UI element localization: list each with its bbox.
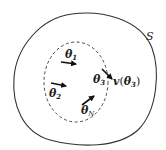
svg-text:θN: θN	[81, 104, 95, 118]
velocity-arrow-theta1	[61, 62, 76, 64]
velocity-arrow-theta2	[51, 83, 66, 86]
svg-text:θ2: θ2	[49, 87, 61, 101]
particle-thetaN: θN	[81, 96, 95, 118]
particle-theta3: θ3	[93, 69, 112, 87]
svg-text:θ3: θ3	[93, 73, 105, 87]
velocity-label-theta3: v(θ3)	[113, 75, 140, 89]
region-label-s: S	[146, 30, 154, 43]
svg-text:θ1: θ1	[65, 48, 77, 62]
particle-theta1: θ1	[61, 48, 77, 64]
particle-theta2: θ2	[49, 83, 66, 101]
diagram-canvas: S θ1 θ2 θ3 v(θ3) θN	[0, 0, 166, 150]
